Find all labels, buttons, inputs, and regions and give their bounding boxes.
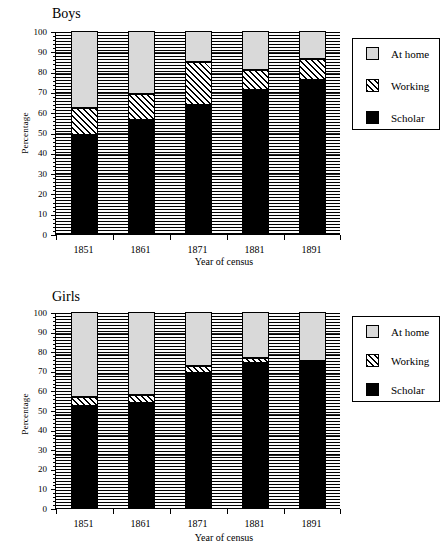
chart-title-girls: Girls: [52, 289, 80, 305]
y-minor-tick: [53, 162, 57, 163]
y-minor-tick: [53, 77, 57, 78]
y-minor-tick: [53, 462, 57, 463]
y-tick-boys-40: [51, 154, 56, 155]
bar-segment-scholar: [185, 105, 211, 234]
y-tick-girls-50: [51, 411, 56, 412]
y-minor-tick: [53, 69, 57, 70]
bar-boys-1891: [299, 31, 325, 234]
legend-label-scholar: Scholar: [391, 384, 425, 396]
y-minor-tick: [53, 321, 57, 322]
bar-segment-working: [242, 70, 268, 90]
y-minor-tick: [53, 407, 57, 408]
y-tick-label-girls-30: 30: [38, 446, 47, 455]
x-tick-label-1861: 1861: [116, 244, 166, 255]
y-minor-tick: [53, 454, 57, 455]
legend-girls: At homeWorkingScholar: [352, 316, 440, 402]
bar-segment-at-home: [128, 31, 154, 94]
y-minor-tick: [53, 466, 57, 467]
legend-label-athome: At home: [391, 48, 429, 60]
bar-boys-1871: [185, 31, 211, 234]
bar-segment-working: [128, 94, 154, 120]
plot-area-girls: [55, 313, 340, 509]
legend-swatch-working-icon: [366, 354, 379, 367]
y-minor-tick: [53, 178, 57, 179]
bar-segment-at-home: [242, 31, 268, 70]
legend-swatch-athome-icon: [366, 47, 379, 60]
y-minor-tick: [53, 384, 57, 385]
x-tick: [340, 235, 341, 240]
legend-swatch-working-icon: [366, 79, 379, 92]
y-minor-tick: [53, 207, 57, 208]
y-minor-tick: [53, 166, 57, 167]
legend-item-athome-boys[interactable]: At home: [366, 47, 429, 60]
x-tick-label-1871: 1871: [173, 244, 223, 255]
legend-item-scholar-girls[interactable]: Scholar: [366, 383, 425, 396]
y-tick-girls-60: [51, 391, 56, 392]
bar-boys-1881: [242, 31, 268, 234]
y-minor-tick: [53, 482, 57, 483]
legend-item-working-boys[interactable]: Working: [366, 79, 429, 92]
y-tick-label-boys-20: 20: [38, 190, 47, 199]
y-minor-tick: [53, 105, 57, 106]
y-tick-label-girls-10: 10: [38, 485, 47, 494]
y-minor-tick: [53, 150, 57, 151]
bar-segment-scholar: [299, 361, 325, 508]
y-minor-tick: [53, 56, 57, 57]
y-minor-tick: [53, 376, 57, 377]
x-tick: [284, 235, 285, 240]
legend-item-working-girls[interactable]: Working: [366, 354, 429, 367]
x-tick-label-1871: 1871: [173, 518, 223, 529]
y-minor-tick: [53, 40, 57, 41]
bar-segment-working: [71, 108, 97, 134]
y-minor-tick: [53, 158, 57, 159]
y-minor-tick: [53, 198, 57, 199]
bar-segment-working: [299, 59, 325, 79]
y-minor-tick: [53, 146, 57, 147]
y-tick-label-girls-70: 70: [38, 367, 47, 376]
y-tick-label-boys-70: 70: [38, 88, 47, 97]
bar-segment-at-home: [71, 312, 97, 397]
y-axis-label-girls: Percentage: [20, 379, 30, 449]
bar-girls-1891: [299, 312, 325, 508]
y-minor-tick: [53, 325, 57, 326]
x-axis-label-boys: Year of census: [0, 256, 448, 267]
bar-segment-scholar: [71, 135, 97, 234]
x-tick: [227, 509, 228, 514]
y-minor-tick: [53, 138, 57, 139]
y-minor-tick: [53, 101, 57, 102]
x-tick-label-1891: 1891: [287, 518, 337, 529]
y-minor-tick: [53, 117, 57, 118]
y-tick-girls-80: [51, 352, 56, 353]
legend-item-athome-girls[interactable]: At home: [366, 325, 429, 338]
y-minor-tick: [53, 344, 57, 345]
y-minor-tick: [53, 44, 57, 45]
bar-segment-scholar: [242, 363, 268, 508]
y-tick-boys-30: [51, 174, 56, 175]
y-tick-label-girls-0: 0: [43, 505, 48, 514]
y-minor-tick: [53, 387, 57, 388]
y-minor-tick: [53, 329, 57, 330]
y-minor-tick: [53, 81, 57, 82]
y-tick-label-boys-50: 50: [38, 129, 47, 138]
x-axis-label-girls: Year of census: [0, 532, 448, 543]
legend-item-scholar-boys[interactable]: Scholar: [366, 111, 425, 124]
y-minor-tick: [53, 423, 57, 424]
y-minor-tick: [53, 231, 57, 232]
chart-title-boys: Boys: [52, 6, 81, 22]
bar-segment-scholar: [128, 403, 154, 508]
bar-segment-at-home: [299, 312, 325, 361]
y-tick-label-boys-80: 80: [38, 68, 47, 77]
y-minor-tick: [53, 427, 57, 428]
y-axis-label-boys: Percentage: [20, 98, 30, 168]
bar-segment-scholar: [128, 120, 154, 234]
y-minor-tick: [53, 446, 57, 447]
y-minor-tick: [53, 395, 57, 396]
y-tick-girls-30: [51, 450, 56, 451]
y-tick-boys-100: [51, 32, 56, 33]
y-minor-tick: [53, 142, 57, 143]
legend-label-athome: At home: [391, 326, 429, 338]
y-tick-label-boys-0: 0: [43, 231, 48, 240]
y-minor-tick: [53, 497, 57, 498]
y-minor-tick: [53, 419, 57, 420]
legend-swatch-athome-icon: [366, 325, 379, 338]
